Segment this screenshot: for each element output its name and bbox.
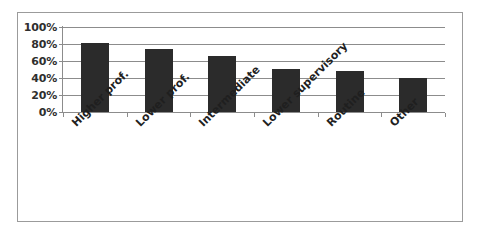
x-axis-tick-mark bbox=[63, 113, 64, 117]
gridline bbox=[63, 95, 445, 96]
x-axis-tick-mark bbox=[381, 113, 382, 117]
gridline bbox=[63, 27, 445, 28]
y-axis-tick-mark bbox=[59, 27, 63, 28]
x-axis-tick-mark bbox=[318, 113, 319, 117]
x-axis-tick-mark bbox=[127, 113, 128, 117]
y-axis-tick-label: 80% bbox=[17, 39, 57, 50]
y-axis-tick-mark bbox=[59, 78, 63, 79]
gridline bbox=[63, 44, 445, 45]
y-axis-tick-mark bbox=[59, 61, 63, 62]
y-axis-tick-label: 40% bbox=[17, 73, 57, 84]
y-axis-tick-mark bbox=[59, 112, 63, 113]
y-axis-tick-mark bbox=[59, 44, 63, 45]
y-axis-tick-label: 100% bbox=[17, 22, 57, 33]
chart-frame: 0%20%40%60%80%100% Higher prof.Lower pro… bbox=[17, 12, 463, 222]
y-axis-tick-label: 60% bbox=[17, 56, 57, 67]
y-axis-tick-label: 20% bbox=[17, 90, 57, 101]
gridline bbox=[63, 61, 445, 62]
y-axis-tick-mark bbox=[59, 95, 63, 96]
y-axis-tick-labels: 0%20%40%60%80%100% bbox=[18, 13, 57, 223]
x-axis-tick-mark bbox=[445, 113, 446, 117]
x-axis-tick-mark bbox=[254, 113, 255, 117]
y-axis-tick-label: 0% bbox=[17, 107, 57, 118]
x-axis-tick-mark bbox=[190, 113, 191, 117]
